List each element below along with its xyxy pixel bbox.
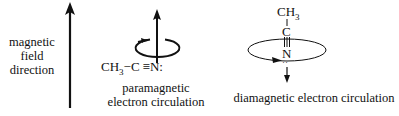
formula-bond: −C <box>124 59 140 74</box>
magnetic-field-arrow-icon <box>65 2 75 108</box>
field-label-line2: field <box>2 49 62 63</box>
lone-pair: ·· <box>282 57 288 67</box>
field-label-line3: direction <box>2 63 62 77</box>
paramagnetic-label-line2: electron circulation <box>100 95 212 109</box>
diamagnetic-label: diamagnetic electron circulation <box>228 91 399 105</box>
paramagnetic-label: paramagnetic electron circulation <box>100 81 212 109</box>
methyl-sub: 3 <box>295 12 300 22</box>
paramagnetic-label-line1: paramagnetic <box>100 81 212 95</box>
diamagnetic-induced-field-arrow-icon <box>284 67 290 83</box>
paramagnetic-induced-field-arrow-icon <box>153 9 161 63</box>
carbon-atom: C <box>282 24 291 40</box>
methyl-ch: CH <box>277 4 295 19</box>
field-direction-label: magnetic field direction <box>2 35 62 77</box>
acetonitrile-formula-horizontal: CH3−C≡N: <box>101 59 163 77</box>
formula-triple-bond: ≡ <box>143 59 150 74</box>
formula-ch: CH <box>101 59 119 74</box>
field-label-line1: magnetic <box>2 35 62 49</box>
methyl-group: CH3 <box>277 4 300 22</box>
formula-nitrogen: N: <box>150 59 163 74</box>
